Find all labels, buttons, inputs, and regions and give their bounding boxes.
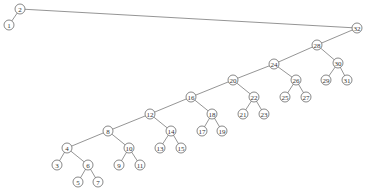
node-label: 22 <box>251 94 259 102</box>
node-label: 7 <box>96 179 100 187</box>
binary-tree-diagram: 2132282430293126252720222123161817191214… <box>0 0 369 195</box>
tree-edge-20-16 <box>191 80 233 97</box>
node-label: 3 <box>55 162 59 170</box>
tree-node-22: 22 <box>249 92 259 102</box>
node-label: 20 <box>230 77 238 85</box>
node-label: 1 <box>7 22 11 30</box>
node-label: 31 <box>344 77 352 85</box>
tree-node-14: 14 <box>166 126 176 136</box>
tree-edge-2-32 <box>20 9 357 28</box>
tree-node-5: 5 <box>73 177 83 187</box>
tree-node-8: 8 <box>103 126 113 136</box>
tree-node-19: 19 <box>217 126 227 136</box>
node-label: 13 <box>157 145 165 153</box>
tree-node-24: 24 <box>269 59 279 69</box>
tree-node-29: 29 <box>321 75 331 85</box>
node-label: 8 <box>106 128 110 136</box>
tree-node-23: 23 <box>259 109 269 119</box>
tree-edge-12-8 <box>108 114 150 131</box>
node-label: 16 <box>188 94 196 102</box>
node-label: 19 <box>219 128 227 136</box>
node-label: 2 <box>18 6 22 14</box>
tree-node-16: 16 <box>186 92 196 102</box>
tree-node-31: 31 <box>342 75 352 85</box>
node-label: 4 <box>65 145 69 153</box>
node-label: 9 <box>117 162 121 170</box>
tree-node-7: 7 <box>93 177 103 187</box>
tree-node-18: 18 <box>207 109 217 119</box>
tree-node-15: 15 <box>176 143 186 153</box>
tree-edge-8-4 <box>67 131 108 148</box>
node-label: 32 <box>354 25 362 33</box>
node-label: 27 <box>303 94 311 102</box>
tree-node-4: 4 <box>62 143 72 153</box>
node-label: 18 <box>209 111 217 119</box>
node-label: 30 <box>335 60 343 68</box>
node-label: 26 <box>293 77 301 85</box>
tree-node-28: 28 <box>312 40 322 50</box>
tree-edge-16-12 <box>150 97 191 114</box>
node-label: 5 <box>76 179 80 187</box>
node-label: 6 <box>86 162 90 170</box>
node-label: 10 <box>126 145 134 153</box>
tree-edge-24-20 <box>233 64 274 80</box>
tree-node-13: 13 <box>155 143 165 153</box>
tree-node-20: 20 <box>228 75 238 85</box>
tree-node-32: 32 <box>352 23 362 33</box>
tree-node-27: 27 <box>301 92 311 102</box>
node-label: 29 <box>323 77 331 85</box>
node-label: 25 <box>282 94 290 102</box>
tree-node-2: 2 <box>15 4 25 14</box>
node-label: 14 <box>168 128 176 136</box>
node-label: 28 <box>314 42 322 50</box>
tree-node-12: 12 <box>145 109 155 119</box>
tree-edge-32-28 <box>317 28 357 45</box>
node-label: 23 <box>261 111 269 119</box>
tree-node-6: 6 <box>83 160 93 170</box>
tree-node-26: 26 <box>291 75 301 85</box>
tree-edge-28-24 <box>274 45 317 64</box>
node-label: 11 <box>137 162 144 170</box>
node-label: 17 <box>199 128 207 136</box>
tree-node-9: 9 <box>114 160 124 170</box>
node-label: 15 <box>178 145 186 153</box>
tree-node-1: 1 <box>4 20 14 30</box>
node-label: 12 <box>147 111 155 119</box>
node-label: 21 <box>240 111 248 119</box>
tree-node-3: 3 <box>52 160 62 170</box>
tree-nodes: 2132282430293126252720222123161817191214… <box>4 4 362 187</box>
tree-node-10: 10 <box>124 143 134 153</box>
tree-node-30: 30 <box>333 58 343 68</box>
tree-node-11: 11 <box>135 160 145 170</box>
node-label: 24 <box>271 61 279 69</box>
tree-node-25: 25 <box>280 92 290 102</box>
tree-node-17: 17 <box>197 126 207 136</box>
tree-node-21: 21 <box>238 109 248 119</box>
